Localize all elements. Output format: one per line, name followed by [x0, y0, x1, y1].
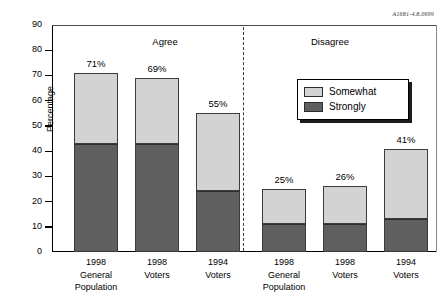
y-tick-mark	[45, 176, 52, 177]
y-tick-mark	[45, 100, 52, 101]
group-header-agree: Agree	[95, 36, 235, 47]
figure-reference-code: A1681-4.8.0699	[393, 11, 434, 17]
segment-strongly[interactable]	[384, 219, 428, 252]
y-tick-mark	[45, 125, 52, 126]
bar-value-label: 25%	[254, 174, 314, 185]
y-tick-mark	[45, 226, 52, 227]
x-label-line: Population	[242, 281, 326, 294]
legend-item-somewhat[interactable]: Somewhat	[304, 84, 402, 99]
bar-value-label: 26%	[315, 171, 375, 182]
x-label-line: Voters	[364, 269, 446, 282]
bar-value-label: 71%	[66, 58, 126, 69]
y-tick-mark	[45, 50, 52, 51]
y-tick-label: 20	[12, 196, 42, 207]
y-tick-mark	[45, 201, 52, 202]
legend-box: Somewhat Strongly	[297, 79, 409, 120]
legend-label-somewhat: Somewhat	[329, 86, 376, 97]
segment-somewhat[interactable]	[262, 189, 306, 224]
legend-swatch-somewhat	[304, 87, 323, 97]
y-tick-label: 10	[12, 221, 42, 232]
legend-swatch-strongly	[304, 102, 323, 112]
segment-somewhat[interactable]	[196, 113, 240, 191]
group-divider-line	[243, 27, 244, 251]
segment-strongly[interactable]	[323, 224, 367, 252]
segment-strongly[interactable]	[262, 224, 306, 252]
segment-somewhat[interactable]	[323, 186, 367, 224]
segment-strongly[interactable]	[196, 191, 240, 252]
y-tick-label: 30	[12, 170, 42, 181]
stacked-bar-chart-figure: A1681-4.8.0699 Percentage 01020304050607…	[0, 0, 446, 304]
plot-top-border	[52, 25, 437, 26]
x-label-line: Population	[54, 281, 138, 294]
bar-value-label: 41%	[376, 134, 436, 145]
segment-somewhat[interactable]	[135, 78, 179, 144]
legend-item-strongly[interactable]: Strongly	[304, 99, 402, 114]
x-label-5: 1994Voters	[364, 256, 446, 281]
legend-label-strongly: Strongly	[329, 101, 366, 112]
bar-value-label: 69%	[127, 63, 187, 74]
y-tick-label: 80	[12, 44, 42, 55]
y-tick-label: 70	[12, 69, 42, 80]
plot-right-border	[436, 25, 437, 252]
y-tick-label: 50	[12, 120, 42, 131]
segment-somewhat[interactable]	[384, 149, 428, 220]
y-tick-label: 60	[12, 95, 42, 106]
bar-value-label: 55%	[188, 98, 248, 109]
y-tick-label: 90	[12, 19, 42, 30]
y-tick-mark	[45, 151, 52, 152]
segment-somewhat[interactable]	[74, 73, 118, 144]
group-header-disagree: Disagree	[255, 36, 405, 47]
y-tick-mark	[45, 75, 52, 76]
y-tick-label: 0	[12, 246, 42, 257]
x-label-line: 1994	[364, 256, 446, 269]
segment-strongly[interactable]	[135, 144, 179, 252]
segment-strongly[interactable]	[74, 144, 118, 252]
y-tick-label: 40	[12, 145, 42, 156]
